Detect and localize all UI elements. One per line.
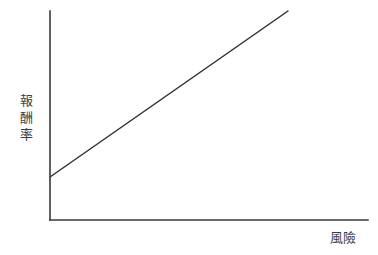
risk-return-line: [50, 11, 288, 177]
chart-canvas: [0, 0, 378, 255]
y-axis-label-char-1: 報: [20, 92, 33, 109]
y-axis-label-char-2: 酬: [20, 109, 33, 126]
x-axis-label: 風險: [330, 229, 356, 246]
risk-return-chart: 報 酬 率 風險: [0, 0, 378, 255]
y-axis-label: 報 酬 率: [14, 92, 38, 143]
y-axis-label-char-3: 率: [20, 126, 33, 143]
